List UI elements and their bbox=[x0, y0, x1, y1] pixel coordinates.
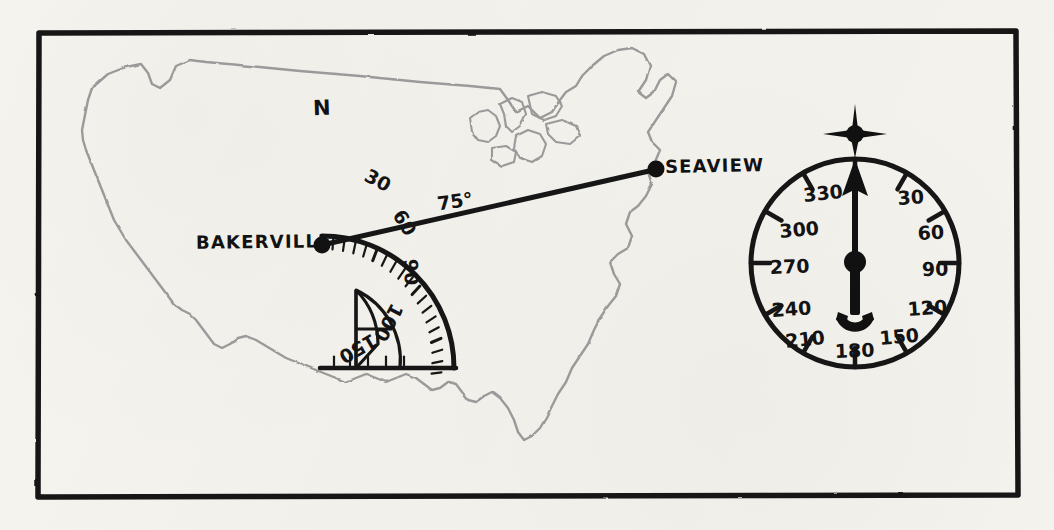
compass-label-120: 120 bbox=[907, 295, 948, 320]
compass-label-330: 330 bbox=[802, 180, 844, 206]
city-marker-seaview bbox=[648, 161, 665, 178]
protractor-label-30: 30 bbox=[361, 164, 395, 196]
protractor-label-150: 150 bbox=[336, 330, 381, 369]
diagram-canvas: 30 60 90 100 150 bbox=[0, 0, 1054, 530]
compass-label-300: 300 bbox=[778, 217, 819, 242]
compass-label-60: 60 bbox=[917, 221, 945, 244]
compass-label-150: 150 bbox=[878, 324, 919, 349]
diagram-page: 30 60 90 100 150 bbox=[0, 0, 1054, 530]
city-label-bakerville: BAKERVILLE bbox=[196, 230, 332, 252]
city-label-seaview: SEAVIEW bbox=[665, 154, 765, 177]
compass-label-30: 30 bbox=[897, 185, 925, 209]
protractor-degree-labels: 30 60 90 100 150 bbox=[336, 164, 423, 368]
compass-label-90: 90 bbox=[922, 258, 949, 280]
compass-label-270: 270 bbox=[769, 255, 809, 278]
compass-label-240: 240 bbox=[771, 296, 812, 321]
compass-label-180: 180 bbox=[834, 339, 874, 362]
border-rectangle bbox=[38, 31, 1018, 497]
protractor-label-90: 90 bbox=[400, 258, 423, 285]
us-map-outline bbox=[82, 48, 676, 440]
compass-rose-dial: 30 60 90 120 150 180 210 240 270 300 330 bbox=[751, 104, 959, 367]
north-star-icon bbox=[823, 104, 887, 158]
north-label: N bbox=[313, 96, 331, 121]
compass-label-210: 210 bbox=[784, 326, 826, 352]
